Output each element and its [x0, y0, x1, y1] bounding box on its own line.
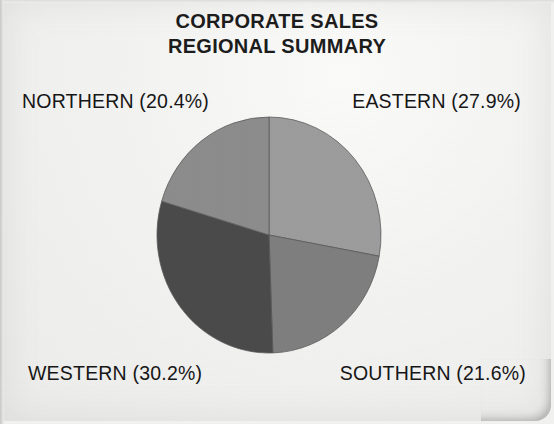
- pie-chart-svg: [155, 114, 385, 356]
- pie-label-western: WESTERN (30.2%): [28, 362, 202, 385]
- pie-slice-southern: [269, 235, 379, 353]
- pie-label-northern: NORTHERN (20.4%): [22, 90, 209, 113]
- pie-label-eastern: EASTERN (27.9%): [352, 90, 521, 113]
- scanned-pie-chart-page: CORPORATE SALES REGIONAL SUMMARY NORTHER…: [0, 0, 554, 424]
- pie-slice-eastern: [269, 117, 381, 256]
- pie-chart: NORTHERN (20.4%) EASTERN (27.9%) WESTERN…: [0, 0, 554, 424]
- pie-label-southern: SOUTHERN (21.6%): [340, 362, 526, 385]
